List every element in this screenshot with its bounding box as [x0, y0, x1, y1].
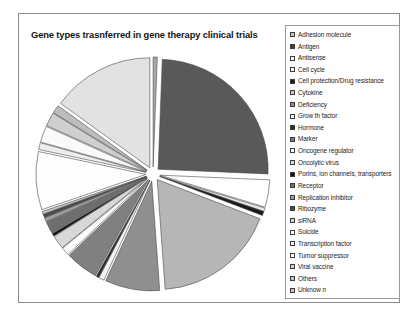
- legend-swatch-icon: [290, 218, 295, 223]
- legend-swatch-icon: [290, 288, 295, 293]
- legend-item-label: Tumor suppressor: [298, 250, 349, 262]
- legend-item-label: Transcription factor: [298, 238, 351, 250]
- legend-item[interactable]: Replication inhibitor: [289, 192, 399, 204]
- legend-item-label: Oncogene regulator: [298, 145, 354, 157]
- legend-swatch-icon: [290, 148, 295, 153]
- legend-swatch-icon: [290, 241, 295, 246]
- legend-swatch-icon: [290, 67, 295, 72]
- legend-swatch-icon: [290, 264, 295, 269]
- legend-swatch-icon: [290, 137, 295, 142]
- legend-item-label: Antisense: [298, 52, 326, 64]
- legend-swatch-icon: [290, 114, 295, 119]
- legend-item[interactable]: Hormone: [289, 122, 399, 134]
- legend-swatch-icon: [290, 44, 295, 49]
- legend-item-label: Adhesion molecule: [298, 29, 351, 41]
- legend-item-label: Oncolytic virus: [298, 157, 339, 169]
- legend-item-label: Antigen: [298, 41, 319, 53]
- legend-item-label: Ribozyme: [298, 203, 326, 215]
- legend-swatch-icon: [290, 206, 295, 211]
- legend-swatch-icon: [290, 195, 295, 200]
- legend-item[interactable]: Cell cycle: [289, 64, 399, 76]
- legend-item[interactable]: Marker: [289, 133, 399, 145]
- pie-slice[interactable]: [153, 57, 157, 167]
- legend-item[interactable]: Cell protection/Drug resistance: [289, 75, 399, 87]
- pie-chart-svg: [27, 50, 285, 300]
- legend-swatch-icon: [290, 172, 295, 177]
- legend-swatch-icon: [290, 125, 295, 130]
- legend-swatch-icon: [290, 160, 295, 165]
- legend-item[interactable]: Oncolytic virus: [289, 157, 399, 169]
- legend-item-label: Receptor: [298, 180, 324, 192]
- legend-item[interactable]: Cytokine: [289, 87, 399, 99]
- legend-item-label: Others: [298, 273, 317, 285]
- legend-item[interactable]: siRNA: [289, 215, 399, 227]
- legend-item[interactable]: Suicide: [289, 226, 399, 238]
- legend-item[interactable]: Porins, ion channels, transporters: [289, 168, 399, 180]
- pie-chart: [27, 50, 285, 300]
- legend-item-label: Cell cycle: [298, 64, 325, 76]
- legend-item-label: Cell protection/Drug resistance: [298, 75, 384, 87]
- legend-swatch-icon: [290, 183, 295, 188]
- legend-item[interactable]: Transcription factor: [289, 238, 399, 250]
- legend-item-label: Grow th factor: [298, 110, 337, 122]
- legend-item[interactable]: Viral vaccine: [289, 261, 399, 273]
- legend-swatch-icon: [290, 56, 295, 61]
- chart-legend: Adhesion moleculeAntigenAntisenseCell cy…: [285, 25, 400, 299]
- slide-page: Gene types trasnferred in gene therapy c…: [0, 0, 417, 323]
- legend-item[interactable]: Grow th factor: [289, 110, 399, 122]
- legend-item-label: Suicide: [298, 226, 319, 238]
- pie-slice-group: [36, 57, 270, 291]
- legend-swatch-icon: [290, 102, 295, 107]
- legend-item[interactable]: Tumor suppressor: [289, 250, 399, 262]
- legend-item[interactable]: Unknow n: [289, 284, 399, 296]
- legend-swatch-icon: [290, 230, 295, 235]
- legend-item[interactable]: Deficiency: [289, 99, 399, 111]
- slide-frame: Gene types trasnferred in gene therapy c…: [18, 13, 400, 303]
- legend-item-label: Deficiency: [298, 99, 327, 111]
- legend-swatch-icon: [290, 32, 295, 37]
- legend-item-label: Cytokine: [298, 87, 322, 99]
- legend-swatch-icon: [290, 90, 295, 95]
- legend-item[interactable]: Antisense: [289, 52, 399, 64]
- legend-item-label: siRNA: [298, 215, 316, 227]
- legend-item-label: Marker: [298, 133, 318, 145]
- legend-swatch-icon: [290, 79, 295, 84]
- legend-item-label: Porins, ion channels, transporters: [298, 168, 392, 180]
- legend-item-label: Unknow n: [298, 284, 326, 296]
- chart-title: Gene types trasnferred in gene therapy c…: [31, 29, 287, 41]
- legend-item[interactable]: Adhesion molecule: [289, 29, 399, 41]
- legend-item-label: Hormone: [298, 122, 324, 134]
- legend-item[interactable]: Ribozyme: [289, 203, 399, 215]
- legend-swatch-icon: [290, 253, 295, 258]
- pie-slice[interactable]: [158, 59, 268, 174]
- legend-item-label: Replication inhibitor: [298, 192, 353, 204]
- legend-item[interactable]: Receptor: [289, 180, 399, 192]
- legend-item[interactable]: Oncogene regulator: [289, 145, 399, 157]
- legend-swatch-icon: [290, 276, 295, 281]
- legend-item[interactable]: Antigen: [289, 41, 399, 53]
- legend-item-label: Viral vaccine: [298, 261, 333, 273]
- legend-item[interactable]: Others: [289, 273, 399, 285]
